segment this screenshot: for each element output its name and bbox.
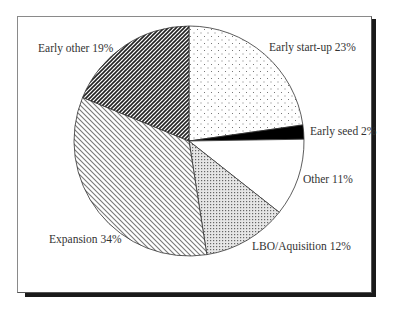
label-early-other: Early other 19% [38,42,113,54]
label-lbo-aquisition: LBO/Aquisition 12% [252,240,351,252]
label-expansion: Expansion 34% [49,233,122,245]
label-early-start-up: Early start-up 23% [269,41,356,53]
label-early-seed: Early seed 2% [310,125,376,137]
label-other: Other 11% [303,173,353,185]
